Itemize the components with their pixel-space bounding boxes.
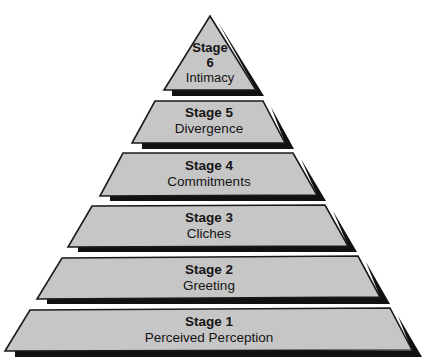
- stage-number: Stage 3: [185, 210, 233, 226]
- tier-label-stage-1: Stage 1 Perceived Perception: [145, 314, 273, 346]
- stage-name: Greeting: [183, 278, 235, 294]
- stage-number: Stage 1: [145, 314, 273, 330]
- stage-number: Stage 5: [175, 105, 243, 121]
- tier-label-stage-4: Stage 4 Commitments: [167, 158, 250, 190]
- tier-label-stage-2: Stage 2 Greeting: [183, 262, 235, 294]
- tier-label-stage-3: Stage 3 Cliches: [185, 210, 233, 242]
- stage-number: 6: [186, 55, 234, 70]
- stage-number: Stage 2: [183, 262, 235, 278]
- stage-number: Stage 4: [167, 158, 250, 174]
- stage-name: Divergence: [175, 121, 243, 137]
- stage-name: Commitments: [167, 174, 250, 190]
- stage-word: Stage: [186, 40, 234, 55]
- stage-name: Intimacy: [186, 70, 234, 85]
- tier-label-stage-5: Stage 5 Divergence: [175, 105, 243, 137]
- stage-name: Cliches: [185, 226, 233, 242]
- tier-label-stage-6: Stage 6 Intimacy: [186, 40, 234, 85]
- stage-name: Perceived Perception: [145, 330, 273, 346]
